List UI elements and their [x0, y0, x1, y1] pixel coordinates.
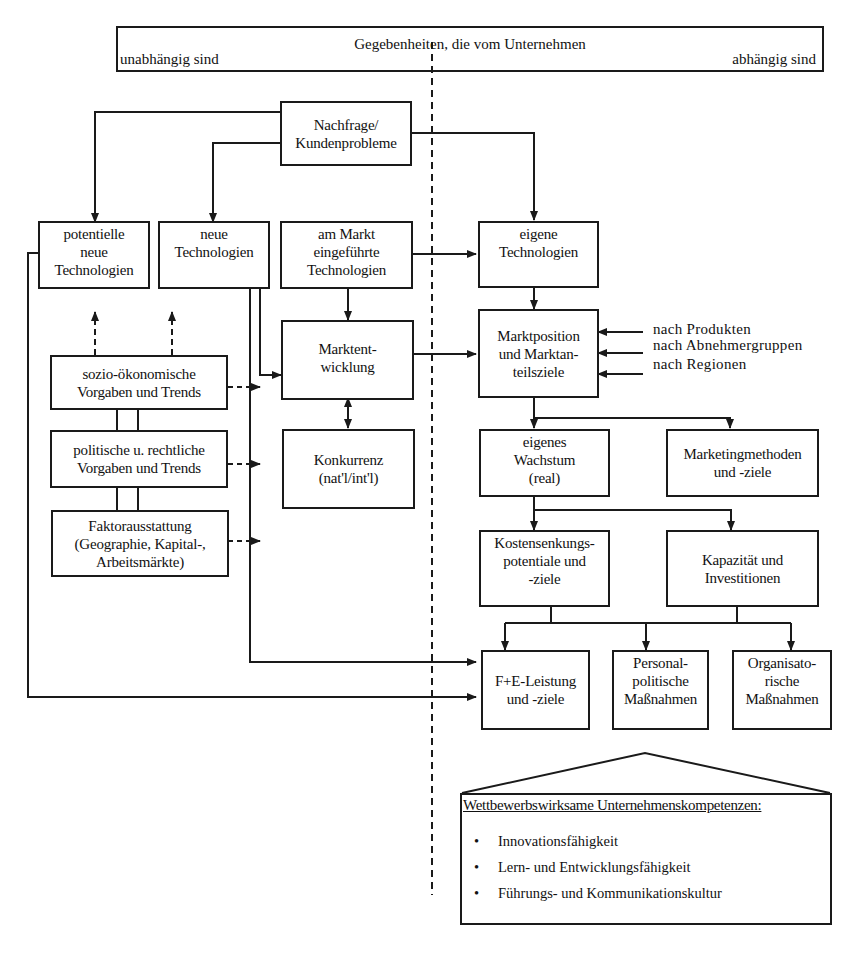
node-text: F+E-Leistung — [495, 672, 576, 690]
bullet-icon: • — [474, 828, 498, 854]
node-personalpolitisch: Personal- politische Maßnahmen — [612, 650, 709, 730]
node-text: und Marktan- — [499, 345, 579, 363]
competencies-title: Wettbewerbswirksame Unternehmenskompeten… — [462, 797, 830, 814]
node-text: Kundenprobleme — [295, 134, 396, 152]
node-text: neue — [80, 243, 108, 261]
node-text: Kapazität und — [702, 551, 783, 569]
node-text: eigene — [520, 225, 558, 243]
node-nachfrage: Nachfrage/ Kundenprobleme — [280, 101, 412, 166]
competencies-box: Wettbewerbswirksame Unternehmenskompeten… — [460, 793, 832, 925]
node-eigenes-wachstum: eigenes Wachstum (real) — [479, 429, 610, 497]
node-marktposition: Marktposition und Marktan- teilsziele — [478, 309, 599, 398]
node-kostensenkung: Kostensenkungs- potentiale und -ziele — [479, 530, 610, 607]
node-konkurrenz: Konkurrenz (nat'l/int'l) — [282, 429, 415, 509]
node-potentielle-technologien: potentielle neue Technologien — [38, 221, 150, 289]
node-text: politische u. rechtliche — [73, 441, 204, 459]
node-text: eingeführte — [313, 243, 379, 261]
header-box: Gegebenheiten, die vom Unternehmen unabh… — [116, 26, 824, 72]
node-text: Investitionen — [705, 569, 781, 587]
node-text: Technologien — [54, 261, 133, 279]
node-am-markt-technologien: am Markt eingeführte Technologien — [280, 221, 413, 289]
node-text: Marktposition — [497, 327, 579, 345]
node-text: neue — [200, 225, 228, 243]
node-text: und -ziele — [714, 463, 772, 481]
node-text: potentiale und — [503, 552, 586, 570]
marktposition-input-regionen: nach Regionen — [653, 355, 746, 373]
roof-shape — [462, 753, 830, 793]
node-text: Personal- — [633, 654, 688, 672]
node-text: Nachfrage/ — [314, 116, 379, 134]
node-text: Technologien — [499, 243, 578, 261]
node-text: Vorgaben und Trends — [77, 459, 201, 477]
node-text: Organisato- — [748, 654, 816, 672]
competency-text: Führungs- und Kommunikationskultur — [498, 885, 722, 901]
node-text: Maßnahmen — [624, 690, 697, 708]
node-text: Technologien — [307, 261, 386, 279]
bullet-icon: • — [474, 854, 498, 880]
node-marketingmethoden: Marketingmethoden und -ziele — [666, 429, 819, 497]
node-text: Kostensenkungs- — [494, 534, 594, 552]
node-text: teilsziele — [513, 363, 564, 381]
node-text: (nat'l/int'l) — [319, 469, 378, 487]
node-text: Marktent- — [318, 340, 376, 358]
node-text: -ziele — [528, 570, 560, 588]
node-eigene-technologien: eigene Technologien — [478, 221, 599, 288]
header-left-label: unabhängig sind — [120, 51, 219, 68]
node-text: Marketingmethoden — [683, 445, 801, 463]
node-text: Konkurrenz — [314, 451, 384, 469]
header-title: Gegebenheiten, die vom Unternehmen — [118, 36, 822, 53]
node-sozio-oekonomisch: sozio-ökonomische Vorgaben und Trends — [50, 355, 228, 410]
competency-item: •Führungs- und Kommunikationskultur — [474, 880, 830, 906]
header-right-label: abhängig sind — [732, 51, 816, 68]
node-fue-leistung: F+E-Leistung und -ziele — [481, 650, 590, 730]
node-text: politische — [632, 672, 688, 690]
node-text: potentielle — [63, 225, 124, 243]
node-text: Technologien — [174, 243, 253, 261]
node-text: Faktorausstattung — [88, 517, 191, 535]
node-text: Arbeitsmärkte) — [96, 553, 184, 571]
node-faktorausstattung: Faktorausstattung (Geographie, Kapital-,… — [51, 510, 229, 577]
competencies-list: •Innovationsfähigkeit •Lern- und Entwick… — [462, 828, 830, 906]
node-text: sozio-ökonomische — [82, 365, 195, 383]
bullet-icon: • — [474, 880, 498, 906]
competency-item: •Lern- und Entwicklungsfähigkeit — [474, 854, 830, 880]
competency-text: Lern- und Entwicklungsfähigkeit — [498, 859, 690, 875]
node-organisatorisch: Organisato- rische Maßnahmen — [732, 650, 832, 730]
node-text: Maßnahmen — [745, 690, 818, 708]
node-marktentwicklung: Marktent- wicklung — [281, 320, 414, 400]
node-text: (Geographie, Kapital-, — [75, 535, 206, 553]
competency-text: Innovationsfähigkeit — [498, 833, 618, 849]
node-text: wicklung — [320, 358, 374, 376]
node-kapazitaet-investitionen: Kapazität und Investitionen — [666, 530, 819, 607]
node-neue-technologien: neue Technologien — [158, 221, 270, 289]
node-text: Wachstum — [514, 451, 575, 469]
marktposition-input-abnehmergruppen: nach Abnehmergruppen — [653, 336, 802, 354]
competency-item: •Innovationsfähigkeit — [474, 828, 830, 854]
node-text: und -ziele — [507, 690, 565, 708]
node-text: (real) — [529, 469, 560, 487]
node-text: am Markt — [318, 225, 375, 243]
node-text: eigenes — [523, 433, 567, 451]
node-text: Vorgaben und Trends — [77, 383, 201, 401]
node-text: rische — [765, 672, 800, 690]
node-politisch-rechtlich: politische u. rechtliche Vorgaben und Tr… — [50, 430, 228, 488]
